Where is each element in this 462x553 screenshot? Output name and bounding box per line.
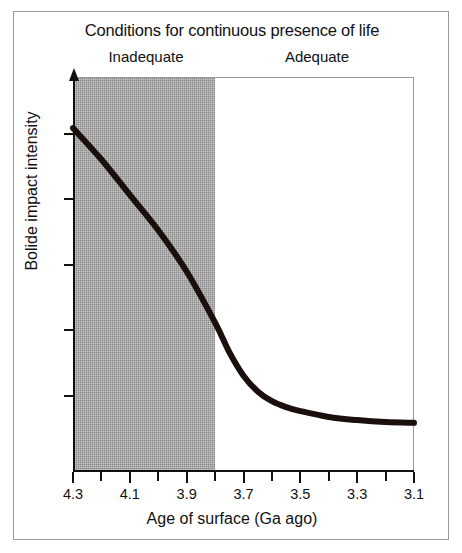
x-axis-tick [186, 472, 188, 483]
figure-frame: Conditions for continuous presence of li… [13, 11, 449, 540]
x-axis-title: Age of surface (Ga ago) [14, 510, 450, 528]
x-axis-tick [243, 472, 245, 483]
x-axis-tick-label: 3.9 [165, 486, 209, 502]
x-axis-tick [299, 472, 301, 483]
x-axis-tick [413, 472, 415, 483]
band-label-adequate: Adequate [219, 48, 415, 65]
x-axis-tick-label: 3.7 [222, 486, 266, 502]
x-axis-tick [72, 472, 74, 483]
plot-area [73, 77, 414, 470]
curve-path [73, 128, 414, 423]
x-axis-tick-label: 3.1 [392, 486, 436, 502]
x-axis-tick [157, 472, 159, 481]
x-axis-tick-label: 3.3 [335, 486, 379, 502]
x-axis-tick-label: 4.3 [51, 486, 95, 502]
x-axis-tick [385, 472, 387, 481]
x-axis-tick [129, 472, 131, 483]
x-axis-tick [328, 472, 330, 481]
y-axis-title: Bolide impact intensity [23, 26, 41, 356]
x-axis-tick [214, 472, 216, 481]
data-curve [73, 77, 414, 470]
x-axis-tick-label: 3.5 [278, 486, 322, 502]
x-axis-tick-label: 4.1 [108, 486, 152, 502]
x-axis-tick [356, 472, 358, 483]
x-axis-tick [271, 472, 273, 481]
band-label-inadequate: Inadequate [73, 48, 219, 65]
x-axis-tick [100, 472, 102, 481]
chart-title: Conditions for continuous presence of li… [14, 21, 450, 40]
